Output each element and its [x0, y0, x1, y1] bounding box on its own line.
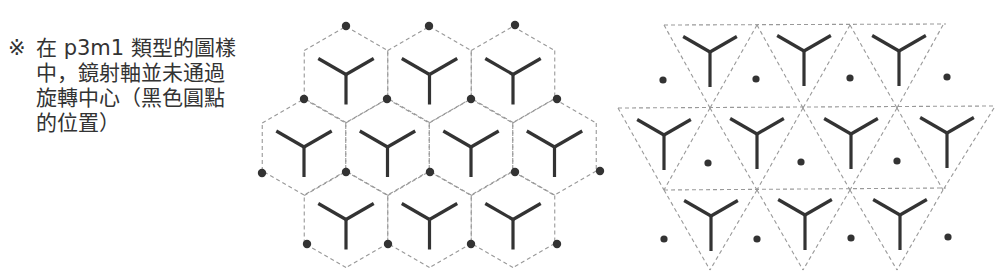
dashed-edge — [471, 99, 513, 123]
dashed-edge — [388, 27, 430, 51]
y-motif-icon — [318, 59, 373, 105]
y-motif-icon — [443, 131, 498, 177]
rotation-center-dot — [426, 168, 434, 176]
y-motif-icon — [318, 204, 373, 250]
rotation-center-dot — [704, 159, 711, 166]
y-motif-icon — [402, 204, 457, 250]
rotation-center-dot — [893, 157, 900, 164]
rotation-center-dot — [797, 158, 804, 165]
dashed-edge — [388, 172, 430, 196]
dashed-edge — [555, 99, 597, 123]
dashed-edge — [471, 99, 513, 123]
rotation-center-dot — [847, 234, 854, 241]
rotation-center-dot — [553, 95, 561, 103]
dashed-edge — [664, 24, 946, 25]
y-motif-icon — [276, 131, 331, 177]
rotation-center-dot — [553, 240, 561, 248]
dashed-edge — [388, 99, 430, 123]
dashed-edge — [471, 171, 513, 195]
y-motif-icon — [360, 131, 415, 177]
dashed-edge — [262, 171, 304, 195]
dashed-edge — [471, 244, 513, 268]
y-motif-icon — [485, 59, 540, 105]
dashed-edge — [304, 99, 346, 123]
pattern-diagrams — [0, 0, 1007, 274]
rotation-center-dot — [303, 240, 311, 248]
dashed-edge — [430, 172, 472, 196]
y-motif-icon — [920, 118, 974, 169]
rotation-center-dot — [342, 22, 350, 30]
dashed-edge — [304, 171, 346, 195]
rotation-center-dot — [944, 233, 951, 240]
rotation-center-dot — [943, 73, 950, 80]
rotation-center-dot — [300, 95, 308, 103]
rotation-center-dot — [753, 235, 760, 242]
triangular-tiling-figure — [618, 24, 994, 270]
y-motif-icon — [683, 37, 737, 88]
dashed-edge — [513, 172, 555, 196]
dashed-edge — [513, 27, 555, 51]
dashed-edge — [304, 244, 346, 268]
dashed-edge — [262, 99, 304, 123]
dashed-edge — [471, 27, 513, 51]
rotation-center-dot — [846, 74, 853, 81]
rotation-center-dot — [511, 21, 519, 29]
dashed-edge — [346, 27, 388, 51]
dashed-edge — [430, 244, 472, 268]
rotation-center-dot — [425, 22, 433, 30]
rotation-center-dot — [467, 240, 475, 248]
dashed-edge — [346, 172, 388, 196]
rotation-center-dot — [384, 240, 392, 248]
dashed-edge — [555, 171, 597, 195]
y-motif-icon — [402, 59, 457, 105]
dashed-edge — [304, 172, 346, 196]
y-motif-icon — [873, 200, 927, 251]
dashed-edge — [664, 188, 946, 190]
y-motif-icon — [824, 119, 878, 170]
y-motif-icon — [730, 119, 784, 170]
dashed-edge — [471, 172, 513, 196]
y-motif-icon — [777, 36, 831, 87]
y-motif-icon — [485, 204, 540, 250]
dashed-edge — [346, 244, 388, 268]
dashed-edge — [850, 190, 897, 270]
rotation-center-dot — [258, 169, 266, 177]
y-motif-icon — [872, 36, 926, 87]
dashed-edge — [618, 106, 994, 108]
y-motif-icon — [778, 200, 832, 251]
dashed-edge — [388, 171, 430, 195]
rotation-center-dot — [596, 167, 604, 175]
dashed-edge — [513, 244, 555, 268]
y-motif-icon — [637, 120, 691, 171]
rotation-center-dot — [752, 75, 759, 82]
dashed-edge — [388, 244, 430, 268]
rotation-center-dot — [660, 235, 667, 242]
hexagonal-tiling-figure — [258, 21, 604, 268]
dashed-edge — [897, 108, 943, 190]
dashed-edge — [388, 99, 430, 123]
y-motif-icon — [684, 201, 738, 252]
dashed-edge — [304, 27, 346, 51]
dashed-edge — [430, 27, 472, 51]
rotation-center-dot — [342, 168, 350, 176]
rotation-center-dot — [511, 168, 519, 176]
rotation-center-dot — [467, 95, 475, 103]
rotation-center-dot — [383, 95, 391, 103]
dashed-edge — [304, 99, 346, 123]
y-motif-icon — [527, 131, 582, 177]
rotation-center-dot — [659, 76, 666, 83]
